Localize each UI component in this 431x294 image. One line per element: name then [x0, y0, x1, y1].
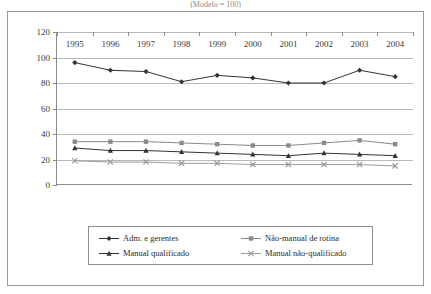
series-cross — [72, 158, 398, 168]
legend-marker-diamond-icon — [99, 234, 119, 243]
series-line — [75, 140, 395, 145]
data-point-square — [249, 236, 253, 240]
y-tick-label: 120 — [10, 28, 50, 37]
series-triangle — [72, 145, 398, 158]
y-tick-label: 80 — [10, 79, 50, 88]
data-point-diamond — [179, 79, 184, 84]
data-point-square — [108, 139, 112, 143]
data-point-square — [144, 139, 148, 143]
data-point-diamond — [72, 60, 77, 65]
legend-marker-triangle-icon — [99, 249, 119, 258]
series-line — [75, 63, 395, 83]
y-tick-mark — [53, 185, 57, 186]
data-point-diamond — [321, 80, 326, 85]
legend-item[interactable]: Adm. e gerentes — [99, 234, 178, 243]
y-tick-label: 20 — [10, 156, 50, 165]
series-line — [75, 148, 395, 156]
legend-item[interactable]: Manual qualificado — [99, 249, 189, 258]
series-line — [75, 161, 395, 166]
series-square — [73, 138, 398, 148]
data-point-diamond — [357, 68, 362, 73]
series-diamond — [72, 60, 398, 86]
legend-item[interactable]: Não-manual de rotina — [241, 234, 339, 243]
y-tick-label: 40 — [10, 130, 50, 139]
data-point-diamond — [108, 68, 113, 73]
y-tick-label: 60 — [10, 105, 50, 114]
legend-marker-cross-icon — [241, 249, 261, 258]
legend-label: Manual não-qualificado — [265, 249, 346, 258]
y-tick-label: 100 — [10, 54, 50, 63]
legend-marker-square-icon — [241, 234, 261, 243]
legend-label: Manual qualificado — [123, 249, 189, 258]
data-point-diamond — [143, 69, 148, 74]
data-point-diamond — [106, 236, 111, 241]
plot-area: 1995199619971998199920002001200220032004 — [56, 32, 412, 185]
data-point-diamond — [215, 73, 220, 78]
data-point-square — [393, 142, 397, 146]
y-tick-label: 0 — [10, 181, 50, 190]
data-point-square — [251, 143, 255, 147]
data-point-square — [357, 138, 361, 142]
x-tick-mark — [413, 32, 414, 36]
data-point-square — [286, 143, 290, 147]
data-point-square — [322, 141, 326, 145]
data-point-diamond — [286, 80, 291, 85]
legend-label: Adm. e gerentes — [123, 234, 178, 243]
chart-legend: Adm. e gerentesNão-manual de rotinaManua… — [88, 226, 373, 265]
data-point-square — [179, 141, 183, 145]
data-point-diamond — [393, 74, 398, 79]
series-layer — [57, 32, 413, 185]
chart-figure: (Modelo = 100) 1995199619971998199920002… — [0, 0, 431, 294]
data-point-diamond — [250, 75, 255, 80]
data-point-square — [73, 139, 77, 143]
data-point-square — [215, 142, 219, 146]
legend-item[interactable]: Manual não-qualificado — [241, 249, 346, 258]
legend-label: Não-manual de rotina — [265, 234, 339, 243]
